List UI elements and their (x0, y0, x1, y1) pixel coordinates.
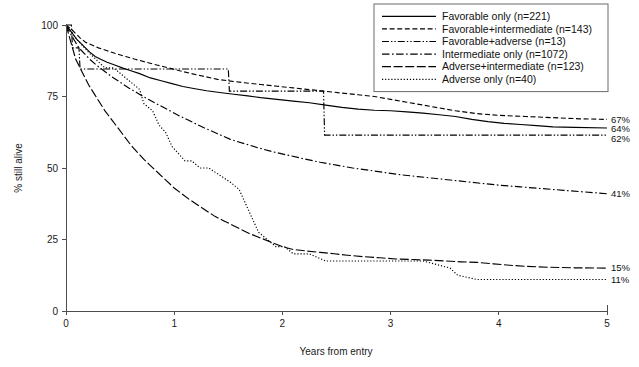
legend-label-4: Adverse+intermediate (n=123) (442, 60, 584, 72)
legend-label-2: Favorable+adverse (n=13) (442, 35, 566, 47)
endpoint-label-4: 15% (611, 262, 631, 273)
legend-label-0: Favorable only (n=221) (442, 10, 550, 22)
y-tick-label: 0 (52, 306, 58, 317)
y-tick-label: 100 (41, 20, 58, 31)
endpoint-labels-layer: 67%64%62%41%15%11% (611, 114, 631, 285)
x-tick-label: 0 (63, 318, 69, 329)
x-tick-label: 5 (604, 318, 610, 329)
y-tick-label: 50 (47, 163, 59, 174)
x-tick-label: 2 (280, 318, 286, 329)
endpoint-label-5: 11% (611, 274, 630, 285)
legend-label-1: Favorable+intermediate (n=143) (442, 23, 592, 35)
x-tick-label: 1 (171, 318, 177, 329)
chart-legend: Favorable only (n=221)Favorable+intermed… (374, 4, 608, 92)
x-tick-label: 4 (496, 318, 502, 329)
y-tick-label: 75 (47, 91, 59, 102)
chart-canvas: 0255075100012345 67%64%62%41%15%11% Favo… (0, 0, 639, 367)
endpoint-label-3: 41% (611, 188, 631, 199)
y-tick-label: 25 (47, 234, 59, 245)
legend-label-5: Adverse only (n=40) (442, 73, 536, 85)
x-tick-label: 3 (388, 318, 394, 329)
x-axis-title: Years from entry (300, 346, 373, 357)
y-axis-title: % still alive (13, 143, 24, 193)
legend-label-3: Intermediate only (n=1072) (442, 48, 568, 60)
endpoint-label-2: 62% (611, 133, 631, 144)
kaplan-meier-survival-chart: 0255075100012345 67%64%62%41%15%11% Favo… (0, 0, 639, 367)
